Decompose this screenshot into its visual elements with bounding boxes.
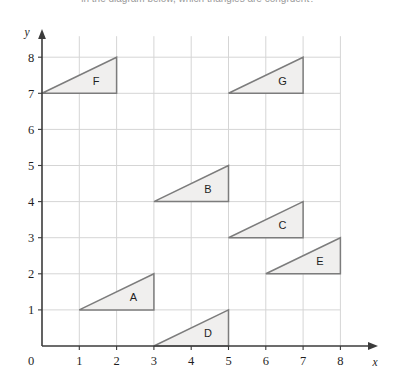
triangle-label-b: B [204,183,211,195]
y-axis-label: y [23,26,30,39]
triangle-label-f: F [93,75,100,87]
x-tick-label-6: 6 [263,354,269,368]
x-tick-label-7: 7 [300,354,306,368]
axis-ticks-layer [38,57,340,350]
x-axis-arrow-icon [368,342,378,350]
y-tick-label-6: 6 [28,123,34,137]
y-tick-label-3: 3 [28,231,34,245]
figure-container: in the diagram below, which triangles ar… [0,0,396,376]
triangle-label-d: D [204,327,212,339]
triangle-label-a: A [130,291,138,303]
x-axis-label: x [371,356,378,368]
x-tick-label-2: 2 [113,354,119,368]
y-tick-label-2: 2 [28,267,34,281]
x-tick-label-3: 3 [151,354,157,368]
y-tick-label-8: 8 [28,51,34,65]
x-tick-label-1: 1 [76,354,82,368]
y-tick-label-4: 4 [28,195,35,209]
coordinate-grid-plot: 01234567812345678 y x ABCDEFG [0,0,396,376]
triangle-label-c: C [279,219,287,231]
triangle-label-g: G [278,75,287,87]
y-axis-arrow-icon [38,29,46,39]
x-tick-label-0: 0 [28,354,34,368]
y-tick-label-5: 5 [28,159,34,173]
y-tick-label-7: 7 [28,87,34,101]
x-tick-label-5: 5 [225,354,231,368]
triangle-label-e: E [316,255,323,267]
y-tick-label-1: 1 [28,303,34,317]
x-tick-label-4: 4 [188,354,195,368]
x-tick-label-8: 8 [337,354,343,368]
